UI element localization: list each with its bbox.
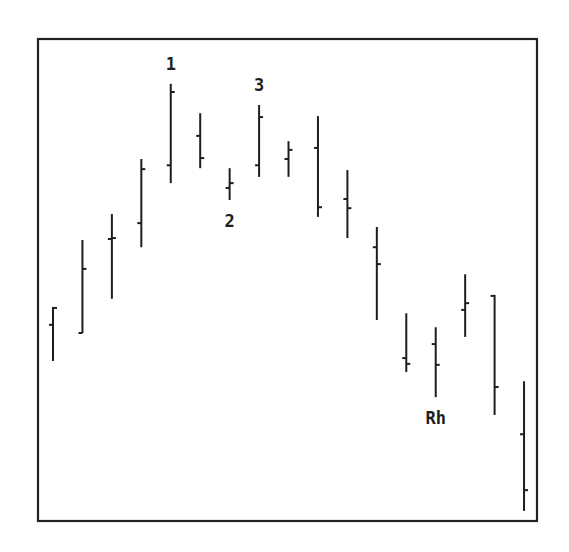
ohlc-bar — [314, 116, 322, 217]
ohlc-bar — [226, 168, 234, 200]
ohlc-bar — [432, 327, 440, 397]
ohlc-bar — [285, 141, 293, 177]
ohlc-bar — [461, 274, 469, 337]
ohlc-bar — [373, 227, 381, 320]
ohlc-bar — [196, 113, 204, 168]
ohlc-bar — [49, 307, 57, 361]
ohlc-bar — [402, 313, 410, 372]
ohlc-bar — [491, 295, 499, 415]
ohlc-bar — [137, 159, 145, 247]
ohlc-bar — [167, 84, 175, 183]
annotation-label: 1 — [166, 54, 176, 74]
ohlc-chart: 123Rh — [0, 0, 569, 552]
ohlc-bar — [343, 170, 351, 238]
bars-group — [49, 84, 528, 511]
annotation-label: Rh — [425, 408, 445, 428]
annotation-label: 2 — [225, 211, 235, 231]
annotation-label: 3 — [254, 75, 264, 95]
annotations-group: 123Rh — [166, 54, 446, 428]
ohlc-bar — [78, 240, 86, 333]
ohlc-bar — [520, 381, 528, 511]
ohlc-bar — [108, 214, 116, 299]
ohlc-bar — [255, 105, 263, 177]
